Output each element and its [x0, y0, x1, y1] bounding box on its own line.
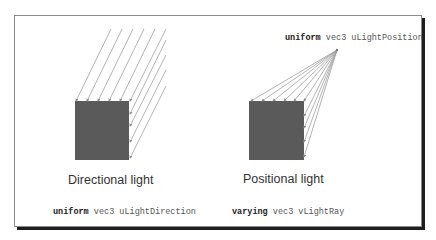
directional-light-caption: Directional light	[68, 173, 153, 187]
qualifier: uniform	[53, 207, 89, 217]
variable-name: vLightRay	[298, 207, 344, 217]
light-source-point	[336, 49, 338, 51]
type: vec3	[94, 207, 114, 217]
positional-light-group	[249, 49, 338, 160]
uniform-light-direction-label: uniform vec3 uLightDirection	[53, 207, 196, 217]
right-surface-square	[249, 101, 304, 160]
left-surface-square	[75, 101, 129, 160]
qualifier: uniform	[285, 33, 321, 43]
variable-name: uLightPosition	[351, 33, 422, 43]
uniform-light-position-label: uniform vec3 uLightPosition	[285, 33, 423, 43]
varying-light-ray-label: varying vec3 vLightRay	[232, 207, 344, 217]
positional-light-caption: Positional light	[243, 172, 324, 186]
type: vec3	[273, 207, 293, 217]
qualifier: varying	[232, 207, 268, 217]
directional-light-group	[75, 29, 166, 160]
variable-name: uLightDirection	[119, 207, 196, 217]
type: vec3	[326, 33, 346, 43]
